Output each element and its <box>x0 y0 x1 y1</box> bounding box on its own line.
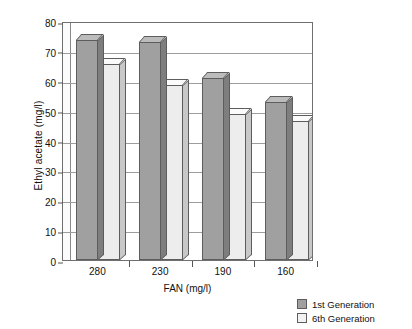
x-axis-title: FAN (mg/l) <box>62 283 313 294</box>
bar-side-face <box>161 37 167 260</box>
plot-inner <box>63 23 312 260</box>
x-axis-tick-label: 230 <box>152 266 169 277</box>
legend: 1st Generation 6th Generation <box>297 297 375 325</box>
bar-series-group <box>63 23 312 260</box>
chart-figure: Ethyl acetate (mg/l) 01020304050607080 2… <box>0 0 412 329</box>
y-axis-tick-label: 60 <box>45 77 63 88</box>
bar-side-face <box>120 59 126 260</box>
bar-side-face <box>98 35 104 260</box>
y-axis-tick-label: 10 <box>45 227 63 238</box>
x-axis-tick-mark <box>254 261 255 267</box>
bar-front-face <box>202 78 224 260</box>
y-axis-tick-label: 30 <box>45 167 63 178</box>
bar-side-face <box>224 72 230 260</box>
legend-label-6th-generation: 6th Generation <box>312 313 375 324</box>
bar-front-face <box>265 102 287 260</box>
bar-side-face <box>183 80 189 260</box>
y-axis-tick-label: 0 <box>50 257 63 268</box>
legend-item-6th-generation: 6th Generation <box>297 311 375 325</box>
legend-label-1st-generation: 1st Generation <box>312 299 374 310</box>
x-axis-tick-label: 160 <box>277 266 294 277</box>
y-axis-tick-label: 70 <box>45 47 63 58</box>
bar-front-face <box>76 40 98 260</box>
bar-160-series-1 <box>265 102 287 260</box>
legend-swatch-icon-1st-generation <box>297 299 307 309</box>
x-axis-tick-mark <box>129 261 130 267</box>
legend-swatch-icon-6th-generation <box>297 313 307 323</box>
y-axis-tick-label: 50 <box>45 107 63 118</box>
bar-280-series-1 <box>76 40 98 260</box>
bar-side-face <box>246 108 252 260</box>
bar-190-series-1 <box>202 78 224 260</box>
legend-item-1st-generation: 1st Generation <box>297 297 375 311</box>
bar-front-face <box>139 42 161 260</box>
y-axis-tick-label: 80 <box>45 18 63 29</box>
plot-area: 01020304050607080 <box>62 22 313 261</box>
y-axis-title: Ethyl acetate (mg/l) <box>33 46 44 246</box>
x-axis-tick-label: 280 <box>89 266 106 277</box>
x-axis-tick-label: 190 <box>215 266 232 277</box>
bar-side-face <box>287 96 293 260</box>
bar-side-face <box>309 116 312 260</box>
x-axis-tick-mark <box>192 261 193 267</box>
x-axis-tick-mark <box>317 261 318 267</box>
y-axis-tick-label: 20 <box>45 197 63 208</box>
bar-230-series-1 <box>139 42 161 260</box>
y-axis-tick-label: 40 <box>45 137 63 148</box>
